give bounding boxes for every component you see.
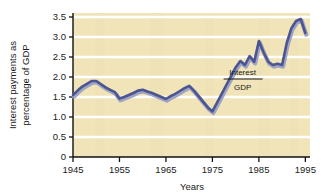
chart-figure: 00.51.01.52.02.53.03.5 19451955196519751…	[0, 0, 328, 194]
x-axis-title: Years	[180, 181, 204, 192]
annotation-numerator: Interest	[229, 68, 256, 77]
interest-payments-line-chart: 00.51.01.52.02.53.03.5 19451955196519751…	[0, 0, 328, 194]
x-tick-label: 1965	[155, 164, 176, 175]
y-tick-label: 3.5	[53, 11, 66, 22]
y-tick-label: 2.5	[53, 51, 66, 62]
y-tick-label: 0.5	[53, 131, 66, 142]
y-tick-label: 0	[61, 151, 66, 162]
annotation-denominator: GDP	[234, 83, 251, 92]
x-tick-label: 1975	[202, 164, 223, 175]
plot-area-background	[73, 13, 310, 157]
y-tick-label: 2.0	[53, 71, 66, 82]
y-tick-label: 1.5	[53, 91, 66, 102]
y-tick-label: 3.0	[53, 31, 66, 42]
x-axis-ticks: 194519551965197519851995	[62, 157, 315, 175]
x-tick-label: 1945	[62, 164, 83, 175]
y-axis-title-line-2: percentage of GDP	[20, 44, 31, 125]
x-tick-label: 1955	[109, 164, 130, 175]
y-tick-label: 1.0	[53, 111, 66, 122]
y-axis-title: Interest payments as percentage of GDP	[7, 41, 31, 129]
y-axis-title-line-1: Interest payments as	[7, 41, 18, 129]
x-tick-label: 1995	[295, 164, 316, 175]
y-axis-ticks: 00.51.01.52.02.53.03.5	[53, 11, 73, 162]
x-tick-label: 1985	[248, 164, 269, 175]
